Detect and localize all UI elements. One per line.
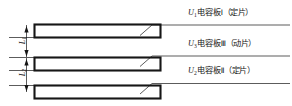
plate-3-annotation: U2电容板Ⅱ（定片） — [188, 67, 254, 75]
dimension-label-L2: L2 — [18, 64, 27, 82]
plate-1-paren-text: （定片） — [223, 8, 253, 17]
capacitor-plate-1-body — [35, 25, 161, 38]
leader-line-plate-1 — [140, 25, 290, 36]
plate-2-annotation: U3电容板Ⅲ（动片） — [188, 40, 256, 48]
dimension-label-L2-symbol: L — [18, 72, 27, 76]
dimension-label-L1-sub: 1 — [21, 37, 27, 40]
leader-line-plate-2 — [140, 56, 290, 67]
capacitor-plate-3-body — [35, 86, 161, 99]
dimension-arrow-L2-bottom — [24, 85, 28, 92]
dimension-arrow-L1-bottom — [24, 50, 28, 57]
plate-2-text: 电容板 — [197, 39, 221, 48]
leader-line-plate-3 — [140, 84, 290, 95]
capacitor-plate-2-body — [35, 58, 161, 71]
plate-3-text: 电容板 — [197, 66, 221, 75]
plate-3-voltage-subscript: 2 — [194, 70, 197, 76]
plate-3-paren-text: （定片） — [224, 66, 254, 75]
plate-2-voltage-subscript: 3 — [194, 43, 197, 49]
figure-canvas: L1 L2 U1电容板Ⅰ（定片） U3电容板Ⅲ（动片） U2电容板Ⅱ（定片） — [0, 0, 292, 106]
dimension-label-L2-sub: 2 — [21, 69, 27, 72]
dimension-label-L1-symbol: L — [18, 40, 27, 44]
dimension-label-L1: L1 — [18, 32, 27, 50]
plate-2-paren-text: （动片） — [226, 39, 256, 48]
plate-1-annotation: U1电容板Ⅰ（定片） — [188, 9, 253, 17]
plate-1-text: 电容板 — [197, 8, 221, 17]
plate-1-voltage-subscript: 1 — [194, 12, 197, 18]
